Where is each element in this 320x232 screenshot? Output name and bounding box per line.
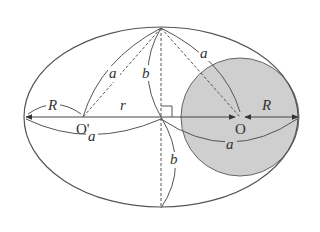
label-a-left-lower: a xyxy=(88,128,96,144)
ellipse-diagram: a b a R r R O' O a a b xyxy=(0,0,320,232)
label-b-lower: b xyxy=(170,151,178,167)
label-r: r xyxy=(120,97,126,113)
label-b-upper: b xyxy=(142,65,150,81)
label-a-right-lower: a xyxy=(226,136,234,152)
label-a-left-upper: a xyxy=(109,65,117,81)
label-O: O xyxy=(235,121,246,137)
right-angle-mark xyxy=(161,106,172,117)
label-R-right: R xyxy=(261,97,271,113)
label-a-right-upper: a xyxy=(200,45,208,61)
label-R-left: R xyxy=(47,97,57,113)
